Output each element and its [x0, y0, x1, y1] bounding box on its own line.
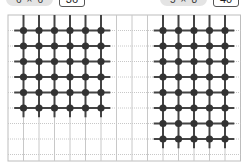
right-node[interactable]: [175, 89, 182, 96]
left-node[interactable]: [66, 58, 73, 65]
grid-board[interactable]: [0, 0, 245, 164]
right-node[interactable]: [206, 73, 213, 80]
left-node[interactable]: [66, 73, 73, 80]
right-node[interactable]: [190, 120, 197, 127]
right-node[interactable]: [221, 89, 228, 96]
right-node[interactable]: [190, 73, 197, 80]
right-node[interactable]: [175, 120, 182, 127]
left-node[interactable]: [35, 89, 42, 96]
right-node[interactable]: [221, 27, 228, 34]
right-node[interactable]: [159, 58, 166, 65]
left-node[interactable]: [51, 73, 58, 80]
left-node[interactable]: [51, 104, 58, 111]
left-node[interactable]: [20, 58, 27, 65]
right-node[interactable]: [221, 104, 228, 111]
left-node[interactable]: [82, 73, 89, 80]
right-node[interactable]: [175, 73, 182, 80]
right-node[interactable]: [190, 104, 197, 111]
left-node[interactable]: [66, 27, 73, 34]
left-node[interactable]: [82, 42, 89, 49]
right-node[interactable]: [206, 27, 213, 34]
right-node[interactable]: [190, 58, 197, 65]
left-node[interactable]: [66, 89, 73, 96]
right-node[interactable]: [175, 135, 182, 142]
left-node[interactable]: [51, 89, 58, 96]
left-node[interactable]: [35, 42, 42, 49]
right-node[interactable]: [206, 42, 213, 49]
left-node[interactable]: [82, 104, 89, 111]
right-node[interactable]: [221, 42, 228, 49]
left-node[interactable]: [20, 27, 27, 34]
left-node[interactable]: [51, 42, 58, 49]
left-node[interactable]: [35, 73, 42, 80]
left-node[interactable]: [20, 89, 27, 96]
right-node[interactable]: [206, 104, 213, 111]
right-node[interactable]: [175, 104, 182, 111]
left-node[interactable]: [35, 58, 42, 65]
left-node[interactable]: [97, 73, 104, 80]
right-node[interactable]: [159, 104, 166, 111]
right-node[interactable]: [159, 42, 166, 49]
right-node[interactable]: [206, 89, 213, 96]
left-node[interactable]: [82, 27, 89, 34]
right-node[interactable]: [221, 120, 228, 127]
left-node[interactable]: [66, 42, 73, 49]
right-node[interactable]: [175, 58, 182, 65]
left-node[interactable]: [82, 58, 89, 65]
right-node[interactable]: [221, 73, 228, 80]
right-node[interactable]: [175, 27, 182, 34]
right-node[interactable]: [159, 89, 166, 96]
left-node[interactable]: [97, 27, 104, 34]
left-node[interactable]: [20, 73, 27, 80]
right-node[interactable]: [159, 135, 166, 142]
right-node[interactable]: [190, 135, 197, 142]
left-node[interactable]: [97, 42, 104, 49]
left-node[interactable]: [35, 27, 42, 34]
right-node[interactable]: [175, 42, 182, 49]
left-node[interactable]: [66, 104, 73, 111]
right-node[interactable]: [190, 89, 197, 96]
right-node[interactable]: [206, 120, 213, 127]
left-node[interactable]: [82, 89, 89, 96]
left-node[interactable]: [51, 27, 58, 34]
left-node[interactable]: [97, 104, 104, 111]
left-node[interactable]: [20, 42, 27, 49]
right-node[interactable]: [190, 42, 197, 49]
right-node[interactable]: [221, 58, 228, 65]
right-node[interactable]: [206, 135, 213, 142]
left-node[interactable]: [97, 89, 104, 96]
left-node[interactable]: [20, 104, 27, 111]
left-node[interactable]: [97, 58, 104, 65]
right-node[interactable]: [206, 58, 213, 65]
left-node[interactable]: [35, 104, 42, 111]
right-node[interactable]: [159, 120, 166, 127]
right-node[interactable]: [159, 27, 166, 34]
left-node[interactable]: [51, 58, 58, 65]
right-node[interactable]: [190, 27, 197, 34]
right-node[interactable]: [221, 135, 228, 142]
right-node[interactable]: [159, 73, 166, 80]
